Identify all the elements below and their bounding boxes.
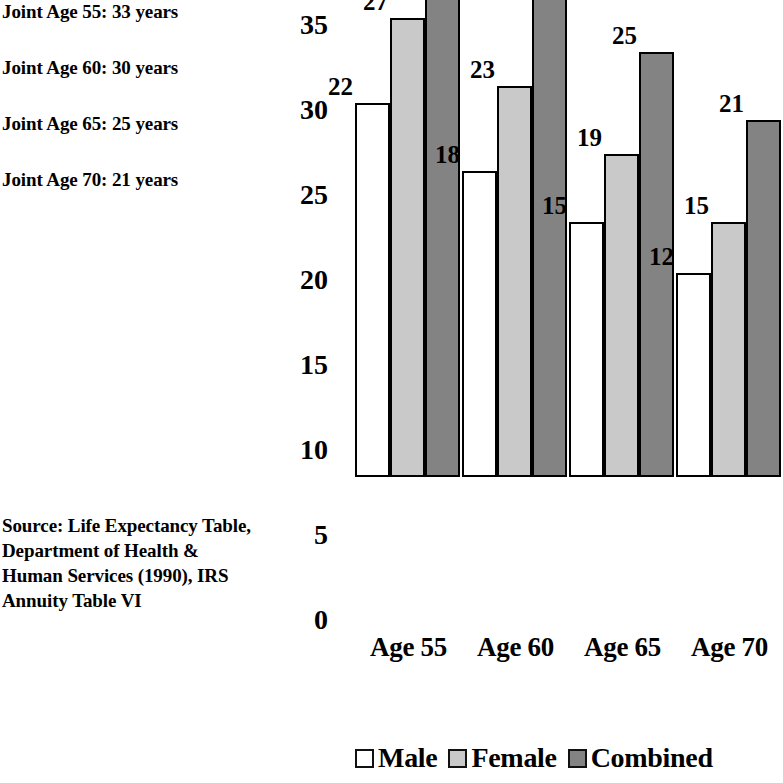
bar-value-label: 15 bbox=[675, 193, 709, 218]
legend-label: Male bbox=[378, 744, 437, 772]
legend-swatch-icon bbox=[448, 749, 467, 768]
x-axis-label: Age 70 bbox=[676, 634, 783, 661]
bar-value-label: 12 bbox=[640, 244, 674, 269]
bar-group-bars: 121521 bbox=[676, 0, 783, 477]
bar-female[interactable] bbox=[497, 86, 532, 477]
bar-male[interactable] bbox=[569, 222, 604, 477]
joint-life-expectancy-notes: Joint Age 55: 33 yearsJoint Age 60: 30 y… bbox=[2, 2, 264, 226]
joint-age-note: Joint Age 65: 25 years bbox=[2, 114, 264, 134]
bar-combined[interactable] bbox=[425, 0, 460, 477]
legend-swatch-icon bbox=[355, 749, 374, 768]
bar-value-label: 15 bbox=[533, 193, 567, 218]
y-axis-tick: 0 bbox=[268, 606, 328, 634]
legend-item-male[interactable]: Male bbox=[355, 744, 437, 772]
bar-group: 151925 bbox=[569, 0, 676, 477]
legend-label: Combined bbox=[591, 744, 713, 772]
bar-male[interactable] bbox=[676, 273, 711, 477]
x-axis-label: Age 55 bbox=[355, 634, 462, 661]
bar-value-label: 23 bbox=[461, 57, 495, 82]
bar-value-label: 25 bbox=[603, 23, 637, 48]
bar-female[interactable] bbox=[604, 154, 639, 477]
bar-value-label: 19 bbox=[568, 125, 602, 150]
bar-male[interactable] bbox=[355, 103, 390, 477]
y-axis-tick: 30 bbox=[268, 96, 328, 124]
bar-female[interactable] bbox=[390, 18, 425, 477]
x-axis-label: Age 60 bbox=[462, 634, 569, 661]
bar-value-label: 22 bbox=[319, 74, 353, 99]
bar-group-bars: 151925 bbox=[569, 0, 676, 477]
bar-value-label: 27 bbox=[354, 0, 388, 14]
legend-swatch-icon bbox=[568, 749, 587, 768]
bar-combined[interactable] bbox=[532, 0, 567, 477]
bar-female[interactable] bbox=[711, 222, 746, 477]
x-axis-label: Age 65 bbox=[569, 634, 676, 661]
bar-combined[interactable] bbox=[746, 120, 781, 477]
y-axis-tick: 35 bbox=[268, 11, 328, 39]
bar-group-bars: 222733 bbox=[355, 0, 462, 477]
joint-age-note: Joint Age 60: 30 years bbox=[2, 58, 264, 78]
legend-item-female[interactable]: Female bbox=[448, 744, 556, 772]
joint-age-note: Joint Age 70: 21 years bbox=[2, 170, 264, 190]
y-axis-tick: 15 bbox=[268, 351, 328, 379]
bar-male[interactable] bbox=[462, 171, 497, 477]
bar-group: 121521 bbox=[676, 0, 783, 477]
bar-group: 222733 bbox=[355, 0, 462, 477]
y-axis-tick: 10 bbox=[268, 436, 328, 464]
chart-legend: MaleFemaleCombined bbox=[355, 744, 724, 772]
source-note: Source: Life Expectancy Table, Departmen… bbox=[2, 513, 252, 613]
y-axis-tick: 20 bbox=[268, 266, 328, 294]
bar-group: 182330 bbox=[462, 0, 569, 477]
bar-value-label: 18 bbox=[426, 142, 460, 167]
y-axis-tick: 5 bbox=[268, 521, 328, 549]
joint-age-note: Joint Age 55: 33 years bbox=[2, 2, 264, 22]
y-axis-tick: 25 bbox=[268, 181, 328, 209]
legend-item-combined[interactable]: Combined bbox=[568, 744, 713, 772]
legend-label: Female bbox=[471, 744, 556, 772]
plot-area: 222733Age 55182330Age 60151925Age 651215… bbox=[340, 0, 777, 640]
bar-group-bars: 182330 bbox=[462, 0, 569, 477]
bar-value-label: 21 bbox=[710, 91, 744, 116]
